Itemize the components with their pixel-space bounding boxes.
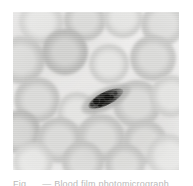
blood-smear-micrograph [13,12,179,170]
page-canvas: Fig. ... — Blood film photomicrograph [0,0,193,186]
figure-caption: Fig. ... — Blood film photomicrograph [13,179,179,186]
slide-background [13,12,179,170]
erythrocyte [42,29,88,75]
